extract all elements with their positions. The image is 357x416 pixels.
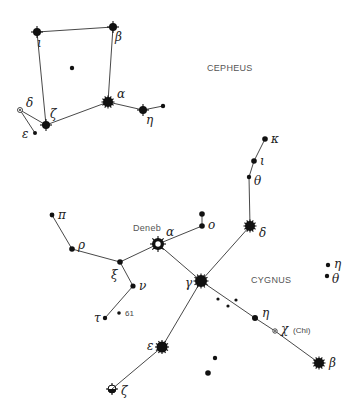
star-label: θ: [332, 272, 340, 286]
connector-line: [201, 281, 255, 318]
star-label: ι: [260, 154, 265, 168]
connector-line: [158, 226, 202, 244]
star-dot-icon: [199, 223, 205, 229]
star-label: τ: [94, 311, 101, 325]
star-4point-icon: [33, 28, 41, 36]
star-label: η: [262, 306, 270, 320]
star-nu: ν: [130, 279, 146, 293]
star-center: [70, 66, 74, 70]
star-f1: [213, 356, 217, 360]
star-beta: β: [313, 356, 337, 370]
star-dot-icon: [252, 315, 258, 321]
star-dot-icon: [326, 263, 330, 267]
star-label: ζ: [50, 107, 58, 121]
star-burst-icon: [314, 358, 324, 368]
star-o_top: [199, 211, 205, 217]
star-dot-icon: [69, 246, 75, 252]
connector-line: [201, 226, 250, 281]
constellation-diagram: CEPHEUSιβαηζδεCYGNUSDenebκιθδοαπρξντ61γη…: [0, 0, 357, 416]
connector-line: [112, 347, 162, 389]
star-dot-icon: [161, 104, 165, 108]
star-pi: π: [50, 208, 67, 222]
star-label: χ: [280, 322, 289, 336]
star-label: α: [166, 225, 174, 239]
star-label: ι: [37, 36, 42, 50]
star-label: η: [146, 113, 154, 127]
star-d1: [216, 297, 219, 300]
star-dot-icon: [216, 297, 219, 300]
connector-line: [37, 27, 113, 32]
star-dot-icon: [33, 131, 37, 135]
star-name-label: Deneb: [133, 223, 161, 233]
star-label: α: [117, 87, 125, 101]
star-4point-icon: [42, 121, 50, 129]
star-delta: δ: [244, 220, 267, 241]
star-dot-icon: [199, 211, 205, 217]
star-dot-icon: [262, 136, 268, 142]
star-epsilon: ε: [22, 127, 37, 141]
star-label: β: [328, 356, 336, 370]
star-zeta: ζ: [40, 107, 58, 131]
star-label: ζ: [121, 384, 129, 398]
star-label: β: [114, 30, 122, 44]
star-kappa: κ: [262, 132, 279, 146]
star-iota: ι: [251, 154, 265, 168]
star-label: θ: [254, 174, 262, 188]
star-dot-icon: [50, 213, 55, 218]
star-chart: CEPHEUSιβαηζδεCYGNUSDenebκιθδοαπρξντ61γη…: [0, 0, 357, 416]
star-label: δ: [259, 226, 266, 240]
star-label: π: [57, 208, 67, 222]
star-delta: δ: [18, 96, 34, 113]
star-label: γ: [185, 276, 193, 290]
star-burst-icon: [103, 97, 113, 107]
star-label: ρ: [77, 238, 85, 252]
star-dot-icon: [226, 304, 229, 307]
star-zeta: ζ: [106, 383, 129, 398]
star-burst-icon: [157, 342, 168, 353]
star-rho: ρ: [69, 238, 85, 252]
star-iota: ι: [31, 26, 43, 50]
star-label: ξ: [111, 268, 119, 282]
star-eta2: [161, 104, 165, 108]
connector-line: [108, 102, 143, 110]
star-d2: [226, 304, 229, 307]
star-note: (Chi): [293, 326, 311, 335]
connector-line: [120, 262, 133, 286]
star-dot-icon: [70, 66, 74, 70]
star-label: 61: [125, 309, 134, 318]
star-dot-icon: [234, 298, 237, 301]
star-label: ε: [22, 127, 28, 141]
star-burst-icon: [195, 275, 207, 287]
star-dot-icon: [205, 370, 211, 376]
star-tau: τ: [94, 311, 107, 325]
star-burst-icon: [245, 221, 255, 231]
constellation-cepheus: CEPHEUSιβαηζδε: [18, 21, 253, 141]
star-eta: η: [137, 104, 154, 127]
star-label: η: [334, 257, 342, 271]
connector-line: [120, 244, 158, 262]
star-dot-icon: [251, 158, 257, 164]
star-beta: β: [107, 21, 122, 44]
star-xi: ξ: [111, 259, 123, 282]
constellation-name: CYGNUS: [251, 275, 291, 285]
star-dot-icon: [103, 316, 107, 320]
constellation-cygnus: CYGNUSDenebκιθδοαπρξντ61γηχ(Chi)βεζηθ: [50, 132, 342, 398]
star-label: δ: [26, 96, 33, 110]
star-dot-icon: [213, 356, 217, 360]
star-theta_r: θ: [325, 272, 340, 286]
star-dot-icon: [130, 283, 135, 288]
star-label: ε: [147, 339, 153, 353]
constellation-name: CEPHEUS: [207, 63, 253, 73]
star-eta_r: η: [326, 257, 342, 271]
star-dot-icon: [117, 259, 123, 265]
connector-line: [158, 244, 201, 281]
connector-line: [249, 177, 250, 226]
star-label: ν: [139, 279, 146, 293]
connector-line: [20, 110, 46, 125]
star-dot-icon: [117, 311, 121, 315]
star-s61: 61: [117, 309, 134, 318]
star-label: ο: [208, 218, 215, 232]
star-d3: [234, 298, 237, 301]
connector-line: [108, 27, 113, 102]
star-eta: η: [252, 306, 270, 321]
